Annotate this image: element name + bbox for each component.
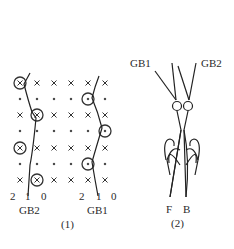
axis-label-right-0: 0	[111, 190, 117, 202]
dot-mark	[19, 98, 21, 100]
dot-mark	[87, 130, 89, 132]
wire-label-gb2: GB2	[19, 204, 40, 216]
dot-mark	[36, 98, 38, 100]
dot-mark	[104, 130, 106, 132]
axis-label-left-0: 0	[41, 190, 47, 202]
wire-label-gb1: GB1	[87, 204, 108, 216]
dot-mark	[53, 130, 55, 132]
label-gb2-top: GB2	[201, 57, 222, 69]
dot-mark	[70, 98, 72, 100]
part1-caption: (1)	[61, 218, 74, 230]
dot-mark	[19, 130, 21, 132]
dot-mark	[53, 163, 55, 165]
axis-label-left-1: 1	[25, 190, 31, 202]
wire-gb1	[92, 76, 102, 196]
label-f: F	[166, 203, 172, 215]
axis-label-right-2: 2	[79, 190, 85, 202]
label-gb1-top: GB1	[130, 57, 151, 69]
dot-mark	[70, 163, 72, 165]
label-b: B	[183, 203, 190, 215]
dot-mark	[36, 163, 38, 165]
dot-mark	[36, 130, 38, 132]
wire-gb2	[24, 73, 36, 196]
dot-mark	[87, 163, 89, 165]
diagram-figure: 2 1 0 2 1 0 GB2 GB1 (1) GB1 GB2 F B (2)	[0, 0, 234, 249]
dot-mark	[53, 98, 55, 100]
field-grid	[14, 77, 111, 186]
dot-mark	[70, 130, 72, 132]
wire-bundle	[155, 63, 199, 197]
part2-caption: (2)	[171, 217, 184, 229]
dot-mark	[104, 98, 106, 100]
dot-mark	[19, 163, 21, 165]
dot-mark	[104, 163, 106, 165]
axis-label-right-1: 1	[96, 190, 102, 202]
dot-mark	[87, 98, 89, 100]
axis-label-left-2: 2	[10, 190, 16, 202]
